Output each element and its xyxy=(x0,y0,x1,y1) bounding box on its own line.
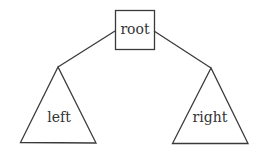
root-node: root xyxy=(116,11,155,50)
left-label: left xyxy=(47,109,71,125)
root-label: root xyxy=(120,21,150,37)
left-subtree: left xyxy=(21,67,97,143)
edge-root-right xyxy=(154,31,211,68)
right-subtree: right xyxy=(173,68,249,144)
edge-root-left xyxy=(58,31,115,67)
right-triangle xyxy=(173,68,249,144)
tree-diagram: root left right xyxy=(0,0,263,157)
right-label: right xyxy=(193,109,228,125)
left-triangle xyxy=(21,67,97,143)
